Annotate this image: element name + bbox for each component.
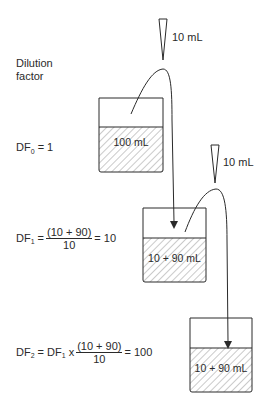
beaker-3: [190, 318, 252, 392]
fraction: (10 + 90) 10: [76, 340, 122, 365]
pipette-1: [159, 19, 167, 60]
equation-df1: DF1 = (10 + 90) 10 = 10: [16, 226, 116, 251]
beaker-3-label: 10 + 90 mL: [190, 362, 252, 374]
title-dilution-factor: Dilution factor: [16, 57, 53, 83]
pipette-1-volume-label: 10 mL: [172, 31, 203, 44]
equation-df2: DF2 = DF1 x (10 + 90) 10 = 100: [16, 340, 152, 365]
beaker-1: [99, 98, 163, 172]
fraction: (10 + 90) 10: [46, 226, 92, 251]
beaker-2-label: 10 + 90 mL: [143, 252, 206, 264]
pipette-2: [211, 145, 219, 183]
beaker-1-label: 100 mL: [99, 136, 163, 148]
beaker-2: [143, 208, 206, 282]
equation-df0: DF0 = 1: [16, 141, 53, 155]
pipette-2-volume-label: 10 mL: [223, 156, 254, 169]
